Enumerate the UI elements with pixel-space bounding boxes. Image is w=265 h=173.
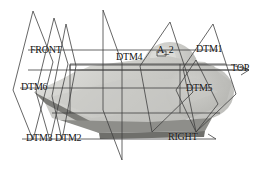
label-dtm2: DTM2 [55, 133, 81, 143]
label-right: RIGHT [168, 132, 198, 142]
label-dtm1: DTM1 [196, 44, 222, 54]
label-dtm4: DTM4 [116, 52, 142, 62]
label-dtm6: DTM6 [21, 82, 47, 92]
tick-right-bottom [208, 134, 216, 139]
plane-dtm3[interactable] [13, 11, 53, 140]
label-a2: A_2 [157, 45, 174, 55]
label-front: FRONT [30, 45, 62, 55]
label-dtm5: DTM5 [186, 83, 212, 93]
label-top: TOP [231, 63, 249, 73]
cad-datum-diagram: FRONT DTM4 A_2 DTM1 TOP DTM6 DTM5 DTM3 D… [0, 0, 265, 173]
label-dtm3: DTM3 [26, 133, 52, 143]
